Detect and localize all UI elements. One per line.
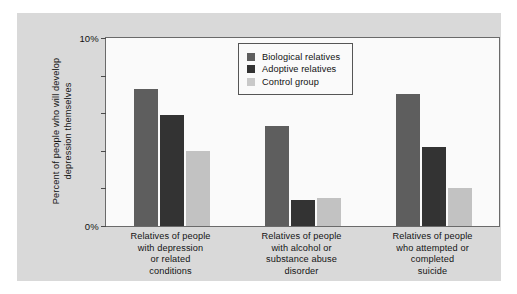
x-axis-category-label: Relatives of peoplewho attempted orcompl… — [363, 231, 503, 277]
bar-control-group-3 — [448, 188, 472, 226]
figure-panel: Percent of people who will develop depre… — [17, 13, 501, 281]
x-axis-category-label-line: suicide — [363, 266, 503, 278]
x-axis-category-label-line: completed — [363, 254, 503, 266]
x-axis-category-label-line: Relatives of people — [363, 231, 503, 243]
figure-container: Percent of people who will develop depre… — [0, 0, 517, 294]
x-axis-category-label: Relatives of peoplewith alcohol orsubsta… — [232, 231, 372, 277]
legend-item: Biological relatives — [247, 52, 340, 62]
bar-adoptive-group-2 — [291, 200, 315, 226]
bar-biological-group-1 — [134, 89, 158, 226]
legend-label: Biological relatives — [262, 52, 340, 62]
y-axis-tick — [101, 226, 106, 227]
legend-label: Adoptive relatives — [262, 64, 336, 74]
bar-biological-group-3 — [396, 94, 420, 226]
x-axis-category-label: Relatives of peoplewith depressionor rel… — [101, 231, 241, 277]
legend-item: Control group — [247, 77, 340, 87]
x-axis-category-label-line: or related — [101, 254, 241, 266]
bar-biological-group-2 — [265, 126, 289, 226]
chart-legend: Biological relatives Adoptive relatives … — [238, 43, 353, 95]
legend-item: Adoptive relatives — [247, 64, 340, 74]
y-axis-tick — [101, 38, 106, 39]
x-axis-category-label-line: substance abuse — [232, 254, 372, 266]
x-axis-category-label-line: Relatives of people — [101, 231, 241, 243]
legend-swatch-control-icon — [247, 78, 255, 86]
x-axis-category-label-line: disorder — [232, 266, 372, 278]
y-axis-tick — [101, 113, 106, 114]
legend-swatch-biological-icon — [247, 53, 255, 61]
y-axis-title: Percent of people who will develop depre… — [47, 37, 77, 225]
x-axis-category-label-line: with alcohol or — [232, 243, 372, 255]
y-axis-tick — [101, 188, 106, 189]
y-axis-tick-label: 10% — [79, 33, 99, 44]
y-axis-tick-label: 0% — [85, 221, 99, 232]
legend-swatch-adoptive-icon — [247, 65, 255, 73]
y-axis-tick — [101, 76, 106, 77]
bar-adoptive-group-1 — [160, 115, 184, 226]
y-axis-tick — [101, 151, 106, 152]
x-axis-category-label-line: who attempted or — [363, 243, 503, 255]
x-axis-category-label-line: conditions — [101, 266, 241, 278]
x-axis-category-label-line: Relatives of people — [232, 231, 372, 243]
bar-adoptive-group-3 — [422, 147, 446, 226]
x-axis-category-label-line: with depression — [101, 243, 241, 255]
bar-control-group-2 — [317, 198, 341, 226]
bar-control-group-1 — [186, 151, 210, 226]
legend-label: Control group — [262, 77, 319, 87]
